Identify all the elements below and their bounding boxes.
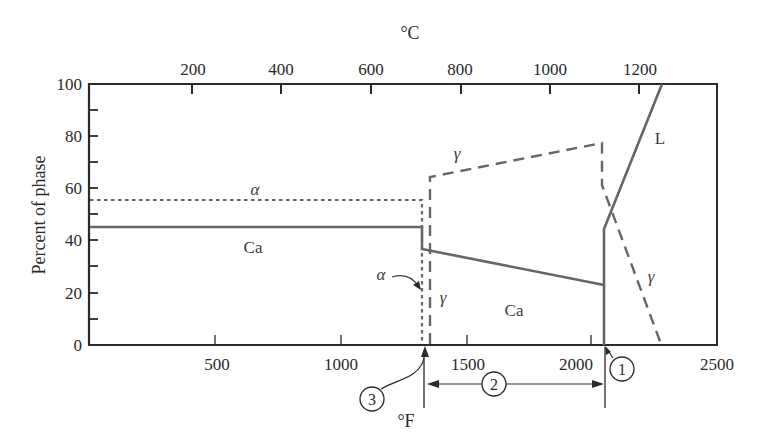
x2-tick-1200: 1200	[623, 60, 657, 79]
label-gamma-mid: γ	[440, 288, 448, 307]
x-tick-2000: 2000	[559, 355, 593, 374]
x2-axis-ticks	[192, 84, 639, 94]
x2-tick-600: 600	[358, 60, 384, 79]
y-tick-60: 60	[65, 179, 82, 198]
label-alpha-arrow: α	[377, 265, 387, 284]
callout-1: 1	[605, 346, 634, 381]
y-tick-0: 0	[74, 336, 83, 355]
y-axis-labels: 100 80 60 40 20 0	[57, 75, 83, 355]
y-tick-20: 20	[65, 284, 82, 303]
x-axis-ticks	[215, 335, 591, 345]
x-axis-title: °F	[397, 411, 414, 431]
x2-axis-title: °C	[400, 23, 419, 43]
arrowhead-left-icon	[427, 380, 439, 388]
callout-number-2: 2	[490, 376, 498, 393]
series-alpha	[90, 200, 422, 344]
callout-number-3: 3	[368, 391, 376, 408]
y-axis-ticks	[89, 110, 98, 319]
label-gamma-right: γ	[648, 267, 656, 286]
plot-frame	[89, 83, 717, 346]
y-tick-80: 80	[65, 127, 82, 146]
series-ca	[90, 227, 604, 285]
phase-chart: 100 80 60 40 20 0 Percent of phase 500 1…	[0, 0, 762, 447]
callout-3: 3	[360, 346, 429, 411]
x2-tick-200: 200	[180, 60, 206, 79]
x-tick-2500: 2500	[700, 355, 734, 374]
callout-number-1: 1	[618, 361, 626, 378]
x-axis-labels: 500 1000 1500 2000 2500	[204, 355, 734, 374]
x2-axis-labels: 200 400 600 800 1000 1200	[180, 60, 657, 79]
y-axis-title: Percent of phase	[29, 156, 49, 275]
x2-tick-800: 800	[447, 60, 473, 79]
x2-tick-1000: 1000	[533, 60, 567, 79]
arrowhead-up-icon	[421, 346, 429, 357]
x-tick-1000: 1000	[324, 355, 358, 374]
label-liquid: L	[655, 129, 665, 148]
label-ca-left: Ca	[244, 238, 263, 257]
label-alpha-top: α	[251, 180, 261, 199]
x-tick-1500: 1500	[451, 355, 485, 374]
y-tick-40: 40	[65, 231, 82, 250]
label-ca-mid: Ca	[505, 301, 524, 320]
y-tick-100: 100	[57, 75, 83, 94]
x2-tick-400: 400	[268, 60, 294, 79]
alpha-pointer-arrow	[392, 276, 421, 290]
region-labels: α Ca γ L α γ Ca γ	[244, 129, 666, 320]
x-tick-500: 500	[204, 355, 230, 374]
label-gamma-top: γ	[454, 144, 462, 163]
arrowhead-right-icon	[592, 380, 604, 388]
